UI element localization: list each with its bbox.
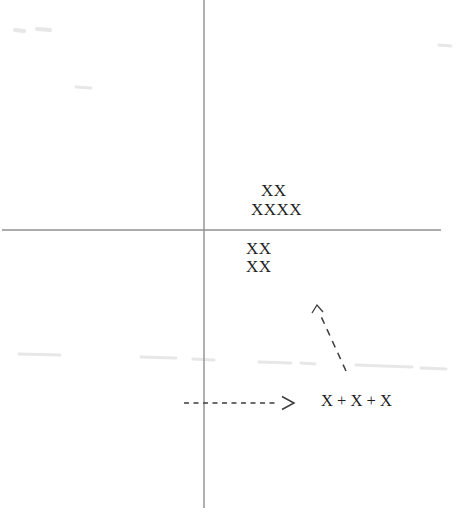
cluster-label-above-axis-row1: XX [261, 182, 287, 199]
scan-artifacts [15, 29, 451, 369]
diagonal-dashed-arrow-shaft [320, 314, 346, 371]
sum-expression-label: X + X + X [321, 392, 392, 409]
scan-artifact [356, 365, 412, 367]
cluster-label-below-axis-row1: XX [246, 240, 272, 257]
scan-artifact [421, 368, 446, 369]
scan-artifact [76, 87, 91, 88]
up-arrowhead-icon [312, 305, 323, 313]
scan-artifact [141, 357, 176, 358]
scan-artifact [37, 29, 50, 30]
scan-artifact [439, 45, 451, 46]
diagram-canvas [0, 0, 456, 529]
scan-artifact [15, 30, 24, 31]
scanned-diagram-page: XX XXXX XX XX X + X + X [0, 0, 456, 529]
cluster-label-above-axis-row2: XXXX [251, 201, 302, 218]
horizontal-dashed-arrow [184, 397, 294, 410]
scan-artifact [259, 362, 291, 363]
cluster-label-below-axis-row2: XX [246, 258, 272, 275]
right-arrowhead-icon [282, 397, 294, 410]
scan-artifact [19, 354, 60, 355]
scan-artifact [301, 363, 315, 364]
diagonal-dashed-arrow [312, 305, 346, 371]
